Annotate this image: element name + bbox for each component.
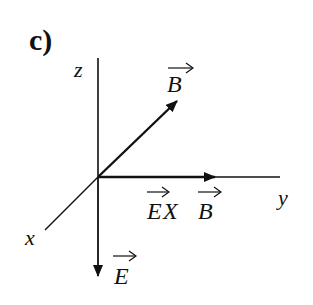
b-vector-label: B <box>167 63 193 97</box>
x-axis <box>45 177 98 230</box>
svg-text:E: E <box>146 198 162 224</box>
panel-label: c) <box>29 23 52 57</box>
b-vector-arrow <box>98 101 177 177</box>
em-wave-vector-diagram: c) z x y B E X B E <box>0 0 313 305</box>
svg-text:B: B <box>167 71 182 97</box>
x-axis-label: x <box>24 225 35 250</box>
svg-text:E: E <box>113 263 129 289</box>
y-axis-label: y <box>276 185 288 210</box>
exb-vector-label: E X B <box>146 187 221 224</box>
e-vector-label: E <box>113 251 136 289</box>
z-axis-label: z <box>73 57 83 82</box>
svg-text:X: X <box>162 198 179 224</box>
svg-text:B: B <box>198 198 213 224</box>
